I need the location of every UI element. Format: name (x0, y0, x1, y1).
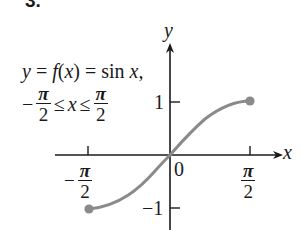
fraction: π 2 (241, 161, 255, 201)
function-annotation: y = f(x) = sin x, (22, 60, 143, 83)
x-tick-label-pos-pi-half: π 2 (241, 161, 255, 201)
y-axis-label: y (164, 19, 173, 42)
y-tick-label-1: 1 (154, 91, 164, 114)
sine-graph-figure: 3. y x 0 1 −1 − π 2 (0, 0, 302, 230)
y-tick-label-neg1: −1 (142, 197, 163, 220)
minus-sign: − (64, 170, 75, 192)
endpoint-left (84, 204, 93, 213)
endpoint-right (245, 96, 254, 105)
fraction: π 2 (78, 161, 92, 201)
fraction: π 2 (36, 84, 50, 124)
x-axis-label: x (283, 141, 292, 164)
origin-label: 0 (174, 158, 184, 181)
domain-annotation: − π 2 ≤ x ≤ π 2 (22, 84, 108, 124)
paren-x: (x) (58, 60, 80, 82)
fraction: π 2 (94, 84, 108, 124)
x-tick-label-neg-pi-half: − π 2 (64, 161, 92, 201)
